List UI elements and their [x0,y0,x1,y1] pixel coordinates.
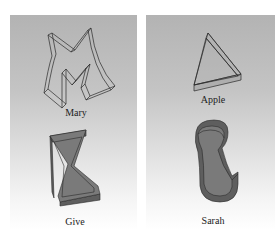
foot-icon [188,118,244,204]
apple-figure [188,30,250,92]
m-shape-icon [38,28,118,108]
mary-figure [38,28,118,108]
mary-label: Mary [46,107,106,119]
sarah-figure [188,118,244,204]
hourglass-icon [48,130,104,206]
give-label: Give [45,216,105,228]
sarah-label: Sarah [183,215,243,227]
triangle-icon [188,30,250,92]
apple-label: Apple [183,94,243,106]
give-figure [48,130,104,206]
